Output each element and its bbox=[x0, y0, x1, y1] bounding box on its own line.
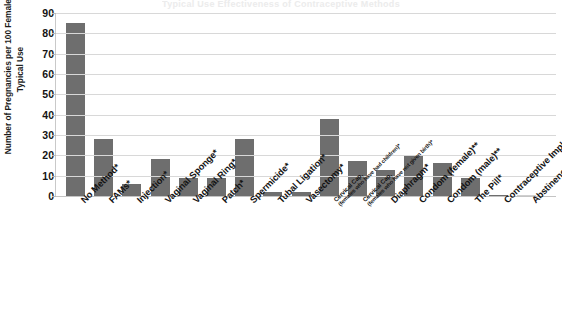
y-tick-mark bbox=[52, 176, 56, 177]
gridline bbox=[56, 33, 556, 34]
x-axis-tick-labels: No Method*FAMs*Injection*Vaginal Sponge*… bbox=[55, 198, 562, 316]
gridline bbox=[56, 155, 556, 156]
gridline bbox=[56, 13, 556, 14]
y-tick-mark bbox=[52, 94, 56, 95]
y-tick-mark bbox=[52, 196, 56, 197]
y-axis-title: Number of Pregnancies per 100 Females in… bbox=[3, 0, 26, 163]
bar-chart: Typical Use Effectiveness of Contracepti… bbox=[0, 0, 562, 316]
gridline bbox=[56, 74, 556, 75]
gridline bbox=[56, 54, 556, 55]
y-tick-mark bbox=[52, 115, 56, 116]
y-tick-mark bbox=[52, 54, 56, 55]
y-tick-mark bbox=[52, 33, 56, 34]
gridline bbox=[56, 115, 556, 116]
y-tick-label: 0 bbox=[30, 191, 54, 201]
y-tick-label: 20 bbox=[30, 150, 54, 160]
y-tick-mark bbox=[52, 13, 56, 14]
y-tick-label: 30 bbox=[30, 130, 54, 140]
y-tick-mark bbox=[52, 74, 56, 75]
y-tick-mark bbox=[52, 155, 56, 156]
y-tick-mark bbox=[52, 135, 56, 136]
gridline bbox=[56, 135, 556, 136]
y-tick-label: 50 bbox=[30, 89, 54, 99]
gridline bbox=[56, 94, 556, 95]
y-tick-label: 90 bbox=[30, 8, 54, 18]
y-axis-tick-labels: 9080706050403020100 bbox=[30, 8, 54, 198]
y-tick-label: 40 bbox=[30, 110, 54, 120]
y-tick-label: 10 bbox=[30, 171, 54, 181]
bar bbox=[66, 23, 85, 196]
y-tick-label: 60 bbox=[30, 69, 54, 79]
y-tick-label: 80 bbox=[30, 28, 54, 38]
y-tick-label: 70 bbox=[30, 49, 54, 59]
